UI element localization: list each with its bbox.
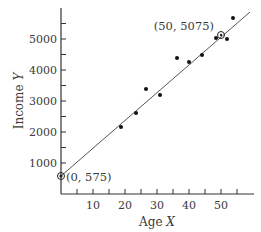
y-tick-label-5000: 5000 <box>29 33 57 46</box>
data-point <box>119 125 123 129</box>
annotation-origin: (0, 575) <box>58 170 112 184</box>
data-point <box>134 111 138 115</box>
data-point <box>144 87 148 91</box>
data-point <box>231 16 235 20</box>
annotation-origin-label: (0, 575) <box>66 170 112 184</box>
x-tick-label-30: 30 <box>150 199 164 212</box>
data-point <box>225 37 229 41</box>
x-axis-label: Age X <box>138 215 175 229</box>
data-point <box>175 56 179 60</box>
y-tick-label-2000: 2000 <box>29 126 57 139</box>
data-point <box>158 93 162 97</box>
x-tick-label-20: 20 <box>118 199 132 212</box>
annotation-fifty: (50, 5075) <box>154 19 225 39</box>
regression-line <box>61 12 250 176</box>
y-tick-label-3000: 3000 <box>29 95 57 108</box>
y-axis-label: Income Y <box>12 72 26 130</box>
x-tick-label-40: 40 <box>182 199 196 212</box>
y-tick-label-1000: 1000 <box>29 157 57 170</box>
scatter-chart: 1000 2000 3000 4000 5000 10 20 30 40 50 … <box>0 0 261 232</box>
x-ticks <box>77 189 237 194</box>
data-point <box>187 60 191 64</box>
data-point <box>200 53 204 57</box>
y-ticks <box>61 24 66 164</box>
y-tick-label-4000: 4000 <box>29 64 57 77</box>
x-tick-label-10: 10 <box>86 199 100 212</box>
x-tick-label-50: 50 <box>214 199 228 212</box>
annotation-fifty-label: (50, 5075) <box>154 19 214 33</box>
